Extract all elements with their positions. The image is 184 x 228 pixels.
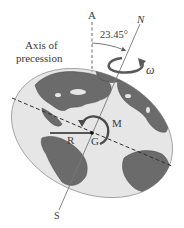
label-precession-line1: Axis of: [25, 40, 58, 51]
label-angle: 23.45°: [100, 30, 128, 41]
label-a: A: [88, 10, 96, 21]
label-omega: ω: [146, 64, 154, 76]
label-s: S: [54, 211, 60, 221]
precession-diagram: [0, 0, 184, 228]
label-moment: M: [112, 118, 122, 129]
label-center: G: [91, 136, 99, 147]
angle-arc: [92, 43, 124, 50]
label-radius: R: [67, 135, 74, 146]
label-n: N: [137, 14, 144, 25]
omega-spin-arrow: [109, 58, 143, 73]
label-precession-line2: precession: [16, 53, 62, 64]
